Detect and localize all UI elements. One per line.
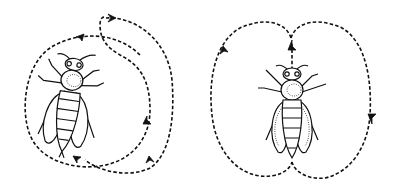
round-dance-inner-path	[25, 17, 150, 167]
bee-icon	[27, 48, 107, 162]
waggle-dance-right-lobe	[291, 22, 370, 178]
round-dance-outer-path	[85, 18, 173, 173]
bee-icon	[258, 65, 326, 158]
arrow-icon	[76, 34, 84, 41]
diagram-canvas	[0, 0, 395, 187]
bee-dance-diagram	[0, 0, 395, 187]
arrow-icon	[146, 156, 154, 163]
arrow-icon	[288, 40, 296, 50]
round-dance-figure	[25, 14, 173, 173]
arrow-icon	[73, 156, 81, 163]
